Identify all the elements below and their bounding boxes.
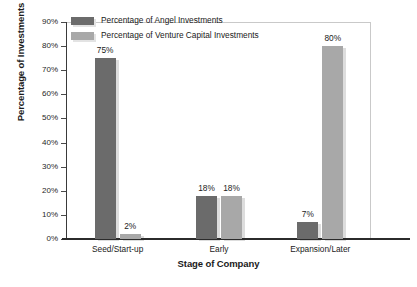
y-tick-label: 40% <box>32 139 58 147</box>
legend-item[interactable]: Percentage of Venture Capital Investment… <box>71 29 259 42</box>
bar-expansion-later-series-1[interactable]: 7% <box>297 222 318 239</box>
bars-layer: 75%2%18%18%7%80% <box>67 22 371 239</box>
bar-group: 7%80% <box>270 22 371 239</box>
bar-face <box>120 234 141 239</box>
y-tick-label: 70% <box>32 66 58 74</box>
y-tick-label-wrap: 30% <box>26 163 58 171</box>
legend-swatch-face <box>71 32 94 40</box>
y-tick-label: 50% <box>32 114 58 122</box>
y-tick-label-wrap: 50% <box>26 114 58 122</box>
y-tick-label: 60% <box>32 90 58 98</box>
x-tick-label: Early <box>168 244 269 254</box>
bar-value-label: 75% <box>97 46 114 55</box>
legend-swatch <box>71 17 94 25</box>
bar-face <box>221 196 242 239</box>
y-tick-90 <box>61 22 66 23</box>
y-tick-label: 90% <box>32 18 58 26</box>
y-tick-label-wrap: 20% <box>26 187 58 195</box>
bar-group: 75%2% <box>67 22 168 239</box>
y-tick-label-wrap: 10% <box>26 211 58 219</box>
legend-swatch <box>71 32 94 40</box>
y-tick-label-wrap: 70% <box>26 66 58 74</box>
y-tick-70 <box>61 70 66 71</box>
bar-face <box>95 58 116 239</box>
y-tick-label-wrap: 40% <box>26 139 58 147</box>
y-tick-40 <box>61 143 66 144</box>
y-tick-80 <box>61 46 66 47</box>
x-axis-title: Stage of Company <box>66 258 371 269</box>
y-tick-20 <box>61 191 66 192</box>
bar-value-label: 18% <box>223 184 240 193</box>
y-tick-label-wrap: 60% <box>26 90 58 98</box>
bar-early-series-1[interactable]: 18% <box>196 196 217 239</box>
x-tick-label: Seed/Start-up <box>67 244 168 254</box>
chart-legend: Percentage of Angel InvestmentsPercentag… <box>71 14 259 44</box>
y-tick-label: 10% <box>32 211 58 219</box>
bar-value-label: 2% <box>124 222 136 231</box>
bar-expansion-later-series-2[interactable]: 80% <box>322 46 343 239</box>
x-tick-label: Expansion/Later <box>270 244 371 254</box>
bar-face <box>196 196 217 239</box>
legend-item[interactable]: Percentage of Angel Investments <box>71 14 259 27</box>
bar-value-label: 18% <box>198 184 215 193</box>
bar-chart: Percentage of Investments 0%10%20%30%40%… <box>0 0 417 287</box>
legend-label: Percentage of Venture Capital Investment… <box>101 31 259 40</box>
y-tick-50 <box>61 118 66 119</box>
y-tick-label-wrap: 80% <box>26 42 58 50</box>
y-tick-30 <box>61 167 66 168</box>
bar-value-label: 7% <box>302 210 314 219</box>
y-tick-label-wrap: 0% <box>26 235 58 243</box>
y-tick-label: 80% <box>32 42 58 50</box>
y-tick-10 <box>61 215 66 216</box>
legend-swatch-face <box>71 17 94 25</box>
bar-early-series-2[interactable]: 18% <box>221 196 242 239</box>
y-tick-label: 0% <box>32 235 58 243</box>
bar-face <box>297 222 318 239</box>
bar-seed-start-up-series-1[interactable]: 75% <box>95 58 116 239</box>
y-tick-label-wrap: 90% <box>26 18 58 26</box>
y-tick-60 <box>61 94 66 95</box>
legend-label: Percentage of Angel Investments <box>101 16 223 25</box>
y-tick-label: 20% <box>32 187 58 195</box>
bar-face <box>322 46 343 239</box>
bar-seed-start-up-series-2[interactable]: 2% <box>120 234 141 239</box>
bar-group: 18%18% <box>168 22 269 239</box>
bar-value-label: 80% <box>325 34 342 43</box>
y-tick-label: 30% <box>32 163 58 171</box>
